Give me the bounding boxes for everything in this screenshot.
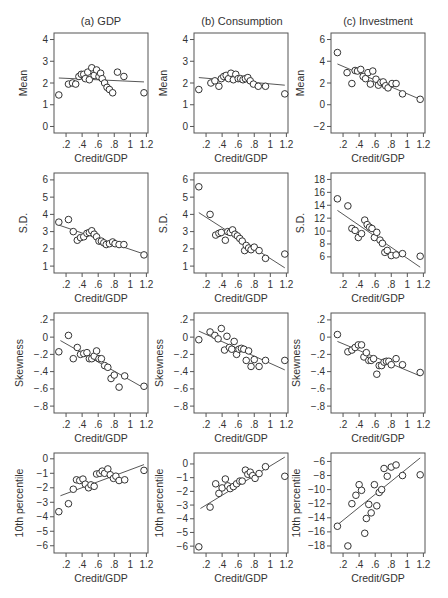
x-tick-label: 1: [128, 139, 134, 150]
x-tick-label: .6: [234, 139, 243, 150]
data-point: [281, 473, 288, 480]
x-tick-label: .2: [62, 139, 71, 150]
y-tick-label: 0: [319, 99, 325, 110]
data-point: [65, 500, 72, 507]
data-point: [262, 255, 269, 262]
data-point: [399, 361, 406, 368]
x-tick-label: .2: [202, 279, 211, 290]
x-tick-label: .2: [339, 139, 348, 150]
x-axis-label: Credit/GDP: [214, 152, 268, 164]
x-tick-label: .8: [110, 559, 119, 570]
y-tick-label: 0: [42, 332, 48, 343]
data-point: [121, 373, 128, 380]
data-point: [207, 504, 214, 511]
x-tick-label: 1: [405, 559, 411, 570]
x-tick-label: 1: [128, 559, 134, 570]
scatter-panel: 01234.2.4.6.811.2Credit/GDPMean: [17, 33, 154, 164]
x-tick-label: 1.2: [139, 279, 153, 290]
x-axis-label: Credit/GDP: [214, 292, 268, 304]
x-tick-label: .2: [202, 419, 211, 430]
x-tick-label: .8: [110, 279, 119, 290]
y-tick-label: 0: [182, 458, 188, 469]
data-point: [358, 342, 365, 349]
y-tick-label: 5: [182, 192, 188, 203]
y-tick-label: 3: [42, 226, 48, 237]
data-point: [368, 510, 375, 517]
y-axis-label: Mean: [157, 70, 169, 96]
data-point: [228, 346, 235, 353]
data-point: [334, 196, 341, 203]
x-tick-label: 1.2: [416, 419, 430, 430]
data-point: [70, 355, 77, 362]
y-axis-label: S.D.: [294, 213, 306, 233]
data-point: [256, 470, 263, 477]
y-tick-label: 5: [42, 192, 48, 203]
data-point: [212, 481, 219, 488]
x-tick-label: .2: [62, 279, 71, 290]
data-point: [373, 229, 380, 236]
x-tick-label: .8: [110, 139, 119, 150]
column-title-gdp: (a) GDP: [81, 15, 121, 27]
y-tick-label: −6: [314, 456, 326, 467]
x-tick-label: 1: [128, 419, 134, 430]
y-tick-label: −.8: [311, 401, 326, 412]
figure-canvas: (a) GDP (b) Consumption (c) Investment 0…: [0, 0, 448, 598]
data-point: [70, 228, 77, 235]
x-tick-label: 1: [268, 139, 274, 150]
y-tick-label: 0: [182, 121, 188, 132]
data-point: [70, 486, 77, 493]
column-title: (c) Investment: [343, 15, 413, 27]
scatter-panel: 123456.2.4.6.811.2Credit/GDPS.D.: [157, 173, 294, 304]
y-tick-label: 0: [42, 121, 48, 132]
column-title-investment: (c) Investment: [343, 15, 413, 27]
scatter-panel: .20−.2−.4−.6−.8.2.4.6.811.2Credit/GDPSke…: [13, 313, 154, 444]
data-point: [215, 336, 222, 343]
data-point: [393, 462, 400, 469]
data-point: [196, 183, 203, 190]
data-point: [196, 336, 203, 343]
data-point: [370, 355, 377, 362]
y-tick-label: −12: [308, 498, 325, 509]
data-point: [358, 487, 365, 494]
x-tick-label: 1: [405, 139, 411, 150]
data-point: [384, 473, 391, 480]
y-tick-label: −3: [177, 500, 189, 511]
data-point: [399, 91, 406, 98]
x-tick-label: 1.2: [139, 419, 153, 430]
x-axis-label: Credit/GDP: [214, 432, 268, 444]
y-tick-label: 2: [182, 78, 188, 89]
data-point: [116, 384, 123, 391]
y-tick-label: −.4: [174, 366, 189, 377]
data-point: [121, 73, 128, 80]
x-tick-label: .4: [218, 139, 227, 150]
x-tick-label: 1.2: [416, 559, 430, 570]
x-axis-label: Credit/GDP: [351, 292, 405, 304]
y-tick-label: 4: [42, 34, 48, 45]
data-point: [334, 523, 341, 530]
data-point: [65, 216, 72, 223]
x-tick-label: .6: [234, 419, 243, 430]
data-point: [361, 530, 368, 537]
data-point: [141, 252, 148, 259]
x-tick-label: .6: [371, 559, 380, 570]
y-tick-label: −18: [308, 540, 325, 551]
y-axis-label: Skewness: [13, 339, 25, 387]
x-tick-label: 1.2: [279, 419, 293, 430]
data-point: [56, 348, 63, 355]
scatter-panel: 01234.2.4.6.811.2Credit/GDPMean: [157, 33, 294, 164]
data-point: [399, 250, 406, 257]
x-tick-label: .4: [355, 279, 364, 290]
data-point: [243, 357, 250, 364]
data-point: [369, 68, 376, 75]
x-tick-label: 1.2: [139, 559, 153, 570]
x-axis-label: Credit/GDP: [74, 292, 128, 304]
column-title: (b) Consumption: [201, 15, 282, 27]
x-tick-label: .2: [62, 419, 71, 430]
x-tick-label: .2: [202, 139, 211, 150]
x-tick-label: .4: [355, 419, 364, 430]
x-tick-label: .2: [202, 559, 211, 570]
data-point: [222, 476, 229, 483]
data-point: [121, 241, 128, 248]
x-tick-label: .4: [78, 559, 87, 570]
data-point: [251, 356, 258, 363]
